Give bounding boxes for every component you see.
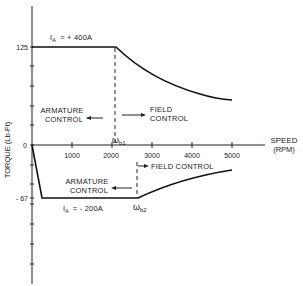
x-tick-4000: 4000: [184, 152, 200, 159]
armature-control-upper-line1: ARMATURE: [40, 106, 83, 115]
ia-positive-label: IA= + 400A: [50, 33, 92, 43]
x-tick-2000: 2000: [103, 152, 119, 159]
braking-curve: [32, 145, 232, 198]
arrow-right-icon: [138, 164, 149, 168]
field-control-upper-line1: FIELD: [150, 105, 173, 114]
field-control-lower: FIELD CONTROL: [151, 162, 214, 171]
x-tick-5000: 5000: [224, 152, 240, 159]
wb2-label: ωb2: [133, 202, 147, 213]
arrow-left-icon: [86, 116, 103, 120]
armature-control-lower-line2: CONTROL: [70, 186, 108, 195]
torque-speed-chart: 125 0 - 67 1000 2000 3000 4000 5000 SPEE…: [0, 0, 303, 286]
y-tick-0: 0: [23, 142, 27, 149]
arrow-left-icon: [111, 186, 132, 190]
field-control-upper-line2: CONTROL: [150, 114, 188, 123]
y-tick-125: 125: [16, 44, 28, 51]
x-tick-1000: 1000: [64, 152, 80, 159]
x-tick-3000: 3000: [144, 152, 160, 159]
armature-control-upper-line2: CONTROL: [45, 115, 83, 124]
x-axis-title-line2: (RPM): [273, 145, 295, 154]
y-tick-neg67: - 67: [16, 195, 28, 202]
ia-negative-label: IA= - 200A: [63, 204, 103, 214]
x-axis-title-line1: SPEED: [270, 136, 297, 145]
arrow-right-icon: [122, 113, 146, 117]
wb1-label: ωb1: [112, 135, 126, 146]
motoring-curve: [32, 47, 232, 100]
armature-control-lower-line1: ARMATURE: [65, 177, 108, 186]
y-axis-title: TORQUE (Lb-Ft): [3, 121, 12, 178]
